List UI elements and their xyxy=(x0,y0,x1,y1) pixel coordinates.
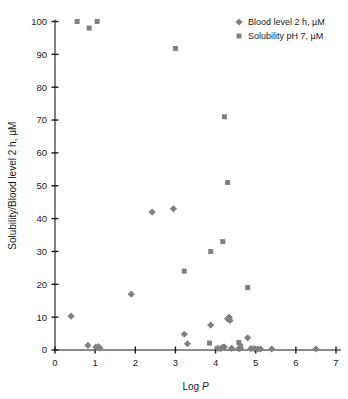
data-point xyxy=(244,334,251,341)
y-tick-label: 60 xyxy=(36,147,47,158)
data-point xyxy=(228,345,235,352)
y-tick-label: 40 xyxy=(36,213,47,224)
data-point xyxy=(222,114,227,119)
y-tick-label: 70 xyxy=(36,114,47,125)
y-tick-label: 50 xyxy=(36,180,47,191)
y-tick-label: 10 xyxy=(36,312,47,323)
data-point xyxy=(268,345,275,352)
x-tick-label: 1 xyxy=(92,357,97,368)
data-point xyxy=(207,341,212,346)
y-axis-title: Solubility/Blood level 2 h, µM xyxy=(7,122,18,250)
data-point xyxy=(75,19,80,24)
data-point xyxy=(67,313,74,320)
x-tick-label: 2 xyxy=(133,357,138,368)
data-point xyxy=(220,239,225,244)
x-axis-title: Log P xyxy=(182,381,208,392)
series-solubility xyxy=(75,19,251,349)
y-tick-label: 30 xyxy=(36,246,47,257)
x-tick-label: 4 xyxy=(213,357,218,368)
x-tick-label: 7 xyxy=(333,357,338,368)
data-point xyxy=(181,331,188,338)
y-tick-label: 80 xyxy=(36,82,47,93)
scatter-chart: 010203040506070809010001234567Solubility… xyxy=(0,0,348,399)
data-point xyxy=(182,269,187,274)
series-blood-level xyxy=(67,205,319,352)
data-point xyxy=(225,180,230,185)
data-point xyxy=(149,208,156,215)
data-point xyxy=(128,291,135,298)
x-tick-label: 5 xyxy=(253,357,258,368)
data-point xyxy=(208,249,213,254)
y-tick-label: 20 xyxy=(36,279,47,290)
data-point xyxy=(173,46,178,51)
data-point xyxy=(184,340,191,347)
x-tick-label: 3 xyxy=(173,357,178,368)
chart-canvas: 010203040506070809010001234567Solubility… xyxy=(0,0,348,399)
data-point xyxy=(245,285,250,290)
data-point xyxy=(84,342,91,349)
x-tick-label: 0 xyxy=(52,357,57,368)
data-point xyxy=(95,19,100,24)
plot-area: 010203040506070809010001234567Solubility… xyxy=(7,16,341,392)
y-tick-label: 100 xyxy=(31,16,47,27)
legend-marker-diamond xyxy=(235,18,242,25)
legend-marker-square xyxy=(237,34,242,39)
data-point xyxy=(170,205,177,212)
y-tick-label: 0 xyxy=(42,344,47,355)
data-point xyxy=(312,345,319,352)
legend-label: Blood level 2 h, µM xyxy=(248,17,325,27)
legend-label: Solubility pH 7, µM xyxy=(248,31,323,41)
y-tick-label: 90 xyxy=(36,49,47,60)
x-tick-label: 6 xyxy=(293,357,298,368)
data-point xyxy=(87,26,92,31)
data-point xyxy=(207,321,214,328)
